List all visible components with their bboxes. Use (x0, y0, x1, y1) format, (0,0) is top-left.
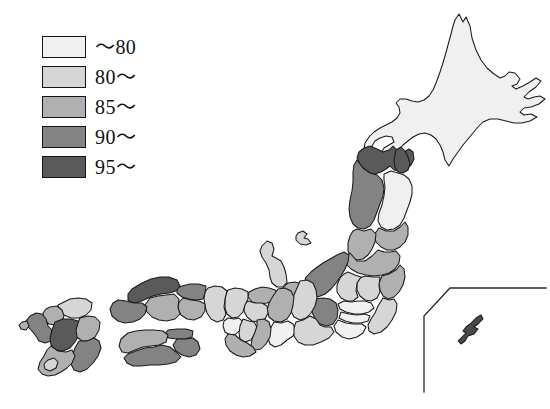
legend-swatch-90 (42, 126, 86, 148)
map-legend: 〜80 80〜 85〜 90〜 95〜 (42, 36, 192, 186)
region-chugoku (110, 277, 206, 323)
legend-label-under-80: 〜80 (95, 37, 136, 57)
region-hokkaido (364, 14, 545, 166)
prefecture-tochigi (357, 276, 380, 301)
legend-swatch-95 (42, 156, 86, 178)
island-sado (296, 231, 311, 245)
prefecture-hyogo (204, 286, 227, 322)
prefecture-miyazaki (71, 338, 101, 372)
legend-label-80: 80〜 (95, 67, 136, 87)
prefecture-aichi (268, 321, 296, 347)
prefecture-iwate (378, 171, 412, 230)
prefecture-okinawa (458, 315, 483, 344)
prefecture-saitama (338, 301, 374, 314)
legend-row-95: 95〜 (42, 156, 192, 178)
prefecture-oita (76, 316, 100, 341)
inset-frame-line (424, 288, 546, 392)
region-kyushu (19, 298, 101, 376)
prefecture-okayama (178, 298, 205, 320)
island-nagasaki-goto (19, 321, 29, 330)
prefecture-yamaguchi (110, 300, 147, 323)
region-tohoku (345, 146, 414, 276)
prefecture-kagawa (164, 329, 193, 339)
prefecture-hiroshima (145, 294, 180, 321)
legend-label-95: 95〜 (95, 157, 136, 177)
figure-canvas: 〜80 80〜 85〜 90〜 95〜 (0, 0, 550, 409)
legend-row-80: 80〜 (42, 66, 192, 88)
legend-row-under-80: 〜80 (42, 36, 192, 58)
legend-label-85: 85〜 (95, 97, 136, 117)
legend-swatch-85 (42, 96, 86, 118)
legend-label-90: 90〜 (95, 127, 136, 147)
prefecture-hokkaido (364, 14, 545, 166)
legend-row-85: 85〜 (42, 96, 192, 118)
legend-swatch-80 (42, 66, 86, 88)
legend-swatch-under-80 (42, 36, 86, 58)
prefecture-chiba (368, 298, 397, 334)
prefecture-tottori (177, 284, 206, 300)
prefecture-kyoto (225, 288, 248, 318)
okinawa-inset-group (424, 288, 546, 392)
legend-row-90: 90〜 (42, 126, 192, 148)
region-shikoku (119, 329, 200, 366)
prefecture-ishikawa (260, 241, 287, 287)
